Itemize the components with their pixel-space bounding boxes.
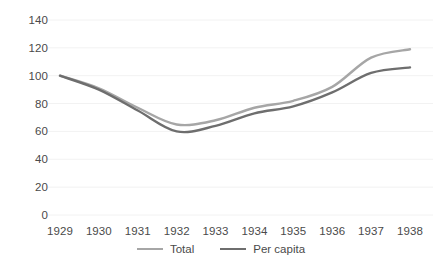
chart-legend: TotalPer capita (0, 243, 442, 255)
x-axis-tick-label: 1929 (38, 225, 82, 237)
legend-item-label: Total (170, 243, 194, 255)
y-axis-tick-label: 20 (0, 181, 48, 193)
series-line-total (60, 49, 410, 125)
x-axis-tick-label: 1934 (232, 225, 276, 237)
series-line-per-capita (60, 67, 410, 132)
x-axis-tick-label: 1932 (155, 225, 199, 237)
y-axis-tick-label: 140 (0, 14, 48, 26)
y-axis-tick-label: 40 (0, 153, 48, 165)
x-axis-tick-label: 1933 (194, 225, 238, 237)
legend-line-swatch-icon (220, 248, 246, 250)
y-axis-tick-label: 60 (0, 125, 48, 137)
legend-item-total[interactable]: Total (137, 243, 194, 255)
y-axis-tick-label: 80 (0, 98, 48, 110)
x-axis-tick-label: 1935 (271, 225, 315, 237)
x-axis-tick-label: 1938 (388, 225, 432, 237)
legend-item-per-capita[interactable]: Per capita (220, 243, 305, 255)
x-axis-tick-label: 1936 (310, 225, 354, 237)
line-chart: 020406080100120140 192919301931193219331… (0, 0, 442, 268)
y-axis-tick-label: 120 (0, 42, 48, 54)
legend-line-swatch-icon (137, 248, 163, 250)
x-axis-tick-label: 1930 (77, 225, 121, 237)
x-axis-tick-label: 1937 (349, 225, 393, 237)
legend-item-label: Per capita (253, 243, 305, 255)
x-axis-tick-label: 1931 (116, 225, 160, 237)
series-lines (60, 49, 410, 132)
y-axis-tick-label: 0 (0, 209, 48, 221)
y-axis-tick-label: 100 (0, 70, 48, 82)
